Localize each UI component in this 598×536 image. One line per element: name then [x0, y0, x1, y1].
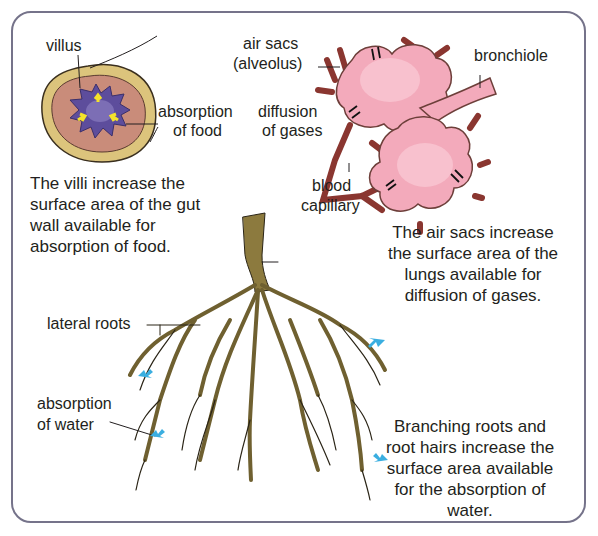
lateral-roots-label: lateral roots: [47, 314, 131, 333]
air-sacs-label-line2: (alveolus): [233, 54, 302, 73]
diffusion-of-gases-label-line2: of gases: [262, 121, 322, 140]
air-sacs-label-line1: air sacs: [243, 34, 298, 53]
lungs-caption: The air sacs increase the surface area o…: [368, 222, 578, 306]
villus-label: villus: [46, 36, 82, 55]
blood-capillary-label-line2: capillary: [301, 196, 360, 215]
roots-caption: Branching roots and root hairs increase …: [372, 416, 568, 521]
diffusion-of-gases-label-line1: diffusion: [258, 102, 317, 121]
absorption-of-food-label-line2: of food: [173, 121, 222, 140]
bronchiole-label: bronchiole: [474, 46, 548, 65]
absorption-of-food-label-line1: absorption: [158, 102, 233, 121]
blood-capillary-label-line1: blood: [312, 176, 351, 195]
absorption-of-water-label-line2: of water: [37, 415, 94, 434]
absorption-of-water-label-line1: absorption: [37, 394, 112, 413]
gut-caption: The villi increase the surface area of t…: [30, 173, 200, 257]
